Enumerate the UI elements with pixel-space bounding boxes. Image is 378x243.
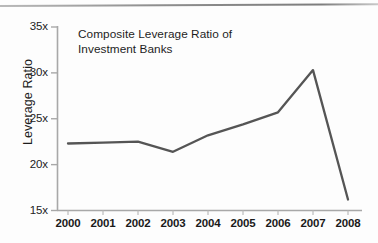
chart-figure: Leverage Ratio Composite Leverage Ratio …	[0, 0, 378, 243]
y-tick-label: 30x	[14, 66, 48, 78]
x-tick-label: 2008	[328, 217, 368, 229]
x-tick-label: 2004	[188, 217, 228, 229]
data-series-line	[68, 70, 348, 199]
y-tick-marks	[51, 27, 58, 211]
x-tick-label: 2001	[83, 217, 123, 229]
x-tick-label: 2000	[48, 217, 88, 229]
y-tick-label: 20x	[14, 158, 48, 170]
plot-area	[0, 0, 378, 243]
x-tick-label: 2002	[118, 217, 158, 229]
y-tick-label: 35x	[14, 20, 48, 32]
x-tick-label: 2007	[293, 217, 333, 229]
y-tick-label: 15x	[14, 204, 48, 216]
x-tick-label: 2006	[258, 217, 298, 229]
x-tick-label: 2003	[153, 217, 193, 229]
axis-lines	[57, 26, 362, 211]
y-tick-label: 25x	[14, 112, 48, 124]
x-tick-label: 2005	[223, 217, 263, 229]
